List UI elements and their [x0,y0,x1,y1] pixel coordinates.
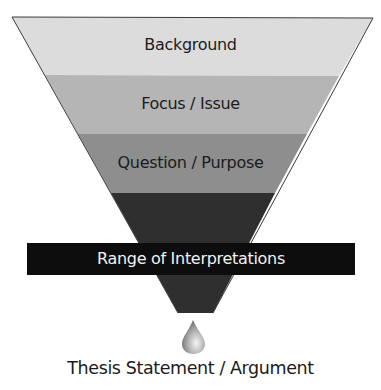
layer-label-question-purpose: Question / Purpose [0,153,381,172]
drop-icon [182,320,205,354]
layer-label-background: Background [0,35,381,54]
layer-label-focus-issue: Focus / Issue [0,94,381,113]
band-label-range-of-interpretations: Range of Interpretations [27,243,355,275]
funnel-diagram [0,0,381,390]
output-label-thesis-statement: Thesis Statement / Argument [0,358,381,378]
